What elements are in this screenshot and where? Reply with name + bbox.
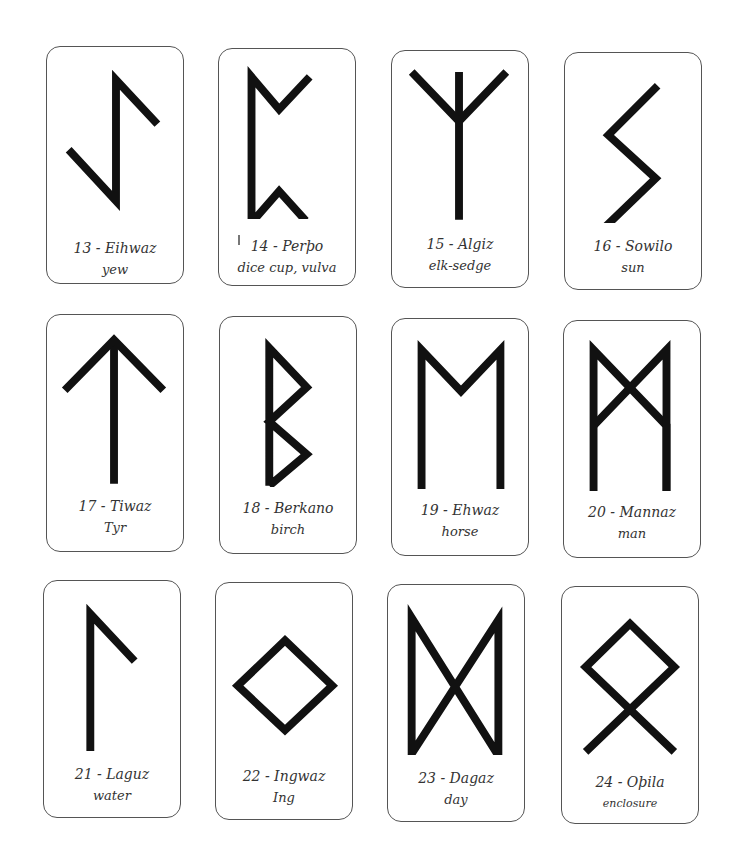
rune-meaning: Ing [216,787,352,809]
card-label: 18 - Berkano birch [220,497,356,541]
card-label: 19 - Ehwaz horse [392,499,528,543]
rune-meaning: enclosure [562,793,698,815]
rune-name: 24 - Oþila [562,771,698,793]
card-label: 14 - Perþo dice cup, vulva [219,235,355,279]
rune-meaning: birch [220,519,356,541]
rune-meaning: dice cup, vulva [219,257,355,279]
perthro-rune-icon [219,49,355,219]
rune-meaning: Tyr [47,517,183,539]
card-label: 20 - Mannaz man [564,501,700,545]
rune-card-tiwaz: 17 - Tiwaz Tyr [46,314,184,552]
rune-card-perthro: 14 - Perþo dice cup, vulva [218,48,356,286]
ehwaz-rune-icon [392,319,528,489]
rune-name: 13 - Eihwaz [47,237,183,259]
ingwaz-rune-icon [216,583,352,753]
rune-meaning: day [388,789,524,811]
dagaz-rune-icon [388,585,524,755]
rune-meaning: yew [47,259,183,281]
rune-name: 21 - Laguz [44,763,180,785]
rune-name: 23 - Dagaz [388,767,524,789]
rune-card-mannaz: 20 - Mannaz man [563,320,701,558]
card-label: 21 - Laguz water [44,763,180,807]
mannaz-rune-icon [564,321,700,491]
rune-name: 14 - Perþo [219,235,355,257]
card-label: 17 - Tiwaz Tyr [47,495,183,539]
berkano-rune-icon [220,317,356,487]
tiwaz-rune-icon [47,315,183,485]
rune-name: 16 - Sowilo [565,235,701,257]
algiz-rune-icon [392,51,528,221]
rune-card-ingwaz: 22 - Ingwaz Ing [215,582,353,820]
rune-card-dagaz: 23 - Dagaz day [387,584,525,822]
rune-card-algiz: 15 - Algiz elk-sedge [391,50,529,288]
rune-name: 20 - Mannaz [564,501,700,523]
card-label: 23 - Dagaz day [388,767,524,811]
rune-name: 17 - Tiwaz [47,495,183,517]
card-label: 22 - Ingwaz Ing [216,765,352,809]
rune-card-berkano: 18 - Berkano birch [219,316,357,554]
rune-name: 15 - Algiz [392,233,528,255]
rune-card-eihwaz: 13 - Eihwaz yew [46,46,184,284]
sowilo-rune-icon [565,53,701,223]
card-label: 15 - Algiz elk-sedge [392,233,528,277]
rune-name: 18 - Berkano [220,497,356,519]
rune-meaning: elk-sedge [392,255,528,277]
rune-card-laguz: 21 - Laguz water [43,580,181,818]
rune-card-ehwaz: 19 - Ehwaz horse [391,318,529,556]
rune-meaning: water [44,785,180,807]
rune-card-sowilo: 16 - Sowilo sun [564,52,702,290]
card-label: 16 - Sowilo sun [565,235,701,279]
rune-name: 22 - Ingwaz [216,765,352,787]
rune-name: 19 - Ehwaz [392,499,528,521]
card-label: 24 - Oþila enclosure [562,771,698,815]
rune-meaning: man [564,523,700,545]
othala-rune-icon [562,587,698,757]
card-label: 13 - Eihwaz yew [47,237,183,281]
laguz-rune-icon [44,581,180,751]
rune-card-othala: 24 - Oþila enclosure [561,586,699,824]
rune-meaning: sun [565,257,701,279]
rune-meaning: horse [392,521,528,543]
eihwaz-rune-icon [47,47,183,217]
